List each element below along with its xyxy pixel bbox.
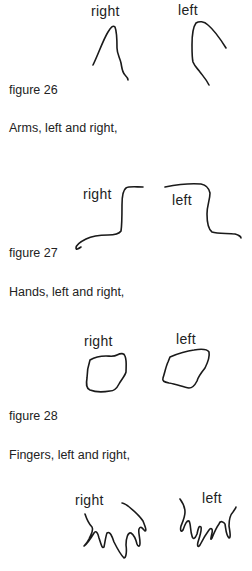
left-fingers-outline-icon xyxy=(180,499,236,546)
right-fingers-outline-icon xyxy=(84,503,146,558)
fingers-drawing xyxy=(0,0,252,571)
